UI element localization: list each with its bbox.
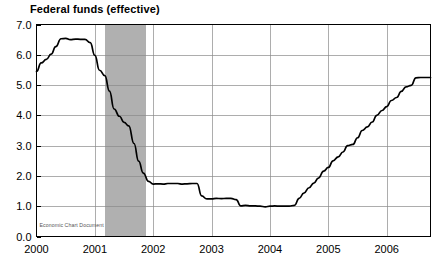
y-axis-tick-label: 1.0: [16, 200, 31, 212]
x-axis-tick-labels: 2000200120022003200420052006: [24, 243, 399, 255]
x-axis-tick-label: 2002: [141, 243, 165, 255]
y-axis-tick-label: 3.0: [16, 140, 31, 152]
y-axis-tick-label: 5.0: [16, 79, 31, 91]
recession-shading-group: [105, 25, 146, 237]
x-axis-tick-label: 2005: [316, 243, 340, 255]
x-axis-tick-label: 2003: [199, 243, 223, 255]
x-axis-tick-label: 2001: [83, 243, 107, 255]
y-axis-tick-labels: 0.01.02.03.04.05.06.07.0: [16, 19, 31, 243]
y-axis-tick-label: 4.0: [16, 109, 31, 121]
watermark-label: Economic Chart Document: [40, 222, 105, 228]
x-axis-tick-label: 2006: [374, 243, 398, 255]
chart-plot-area: 0.01.02.03.04.05.06.07.0 200020012002200…: [0, 0, 441, 265]
x-axis-tick-label: 2004: [258, 243, 282, 255]
y-axis-tick-label: 7.0: [16, 19, 31, 31]
federal-funds-chart: Federal funds (effective) 0.01.02.03.04.…: [0, 0, 441, 265]
y-axis-tick-label: 6.0: [16, 49, 31, 61]
y-axis-tick-label: 2.0: [16, 170, 31, 182]
recession-band: [105, 25, 146, 237]
x-axis-tick-label: 2000: [24, 243, 48, 255]
y-axis-tick-label: 0.0: [16, 231, 31, 243]
